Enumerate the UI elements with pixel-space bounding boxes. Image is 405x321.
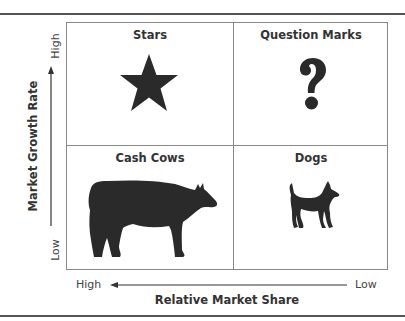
x-axis-arrow [110,282,347,288]
y-axis-arrow [48,66,54,226]
question-mark-icon [297,58,327,110]
quadrant-title: Question Marks [234,28,388,42]
quadrant-cash-cows: Cash Cows [67,146,233,270]
matrix-grid: Stars Question Marks Cash Cows Dogs [66,22,388,270]
x-axis-low-label: Low [355,278,377,291]
quadrant-dogs: Dogs [234,146,388,270]
star-icon [119,53,179,113]
dog-icon [287,181,341,231]
quadrant-title: Dogs [234,151,388,165]
cow-icon [85,178,219,260]
quadrant-stars: Stars [67,23,233,145]
quadrant-title: Stars [67,28,233,42]
x-axis-label: Relative Market Share [155,293,299,307]
bottom-rule [0,315,405,317]
x-axis-high-label: High [76,278,101,291]
quadrant-title: Cash Cows [67,151,233,165]
quadrant-question-marks: Question Marks [234,23,388,145]
